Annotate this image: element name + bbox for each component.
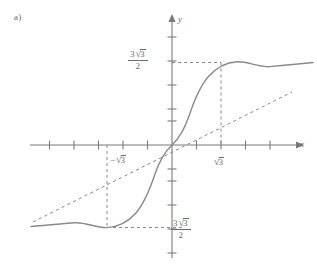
value-label-upper: 3√3 2 (128, 49, 148, 72)
fraction-denominator: 2 (171, 230, 191, 240)
y-axis-arrow (168, 14, 175, 22)
radicand: 3 (219, 157, 225, 167)
fraction-numerator: 3√3 (171, 218, 191, 229)
fraction-numerator: 3√3 (128, 49, 148, 60)
fraction-denominator: 2 (128, 61, 148, 71)
tick-label-sqrt3-positive: √3 (213, 157, 224, 167)
radical-group: √3 (178, 218, 189, 228)
radicand: 3 (121, 155, 127, 165)
part-label: a) (14, 12, 21, 22)
radical-group: √3 (115, 155, 126, 165)
radical-group: √3 (213, 157, 224, 167)
tick-label-sqrt3-negative: −√3 (110, 155, 126, 165)
radical-group: √3 (135, 49, 146, 59)
x-axis-label: x (300, 139, 304, 149)
graph-plot (0, 0, 317, 265)
figure-container: a) y x √3 −√3 3√3 2 3√3 2 (0, 0, 317, 265)
radicand: 3 (140, 49, 146, 59)
value-label-lower: 3√3 2 (171, 218, 191, 241)
radicand: 3 (183, 218, 189, 228)
y-axis-label: y (178, 14, 182, 24)
